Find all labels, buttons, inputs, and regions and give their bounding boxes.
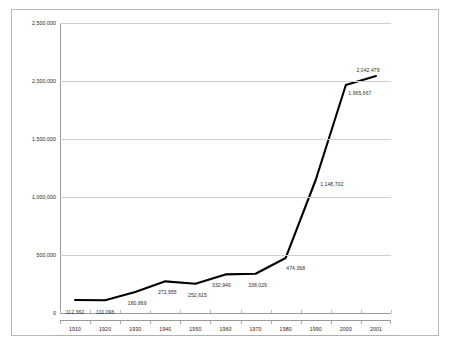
y-axis-tick-label: 2,000,000 [32, 78, 56, 84]
chart-canvas: 0500,0001,000,0001,500,0002,000,0002,500… [12, 10, 440, 337]
x-axis-tick-mark [271, 310, 272, 313]
x-axis-tick-mark [120, 321, 121, 324]
data-point-label: 338,029 [248, 282, 267, 288]
y-axis-tick-label: 500,000 [37, 252, 56, 258]
x-axis-tick-label: 1930 [129, 326, 141, 332]
y-axis-tick-label: 0 [53, 310, 56, 316]
x-axis-tick-mark [331, 310, 332, 313]
gridline [60, 255, 391, 256]
x-axis-tick-mark [120, 310, 121, 313]
data-point-label: 1,148,702 [320, 181, 343, 187]
x-axis-tick-label: 1910 [69, 326, 81, 332]
x-axis-tick-mark [180, 310, 181, 313]
x-axis-tick-mark [180, 321, 181, 324]
data-point-label: 1,965,667 [348, 90, 371, 96]
data-point-label: 332,946 [212, 282, 231, 288]
x-axis-tick-mark [390, 321, 391, 324]
x-axis-tick-mark [271, 321, 272, 324]
x-axis-tick-mark [150, 321, 151, 324]
data-point-label: 110,096 [96, 309, 114, 315]
x-axis-tick-mark [90, 321, 91, 324]
x-axis-tick-label: 1950 [189, 326, 201, 332]
gridline [60, 197, 391, 198]
data-point-label: 180,869 [128, 300, 147, 306]
x-axis-tick-mark [301, 321, 302, 324]
x-axis-tick-mark [60, 310, 61, 313]
x-axis-baseline [54, 335, 397, 336]
gridline [60, 23, 391, 24]
x-axis-tick-label: 1970 [250, 326, 262, 332]
y-axis-tick-label: 1,000,000 [32, 194, 56, 200]
x-axis-tick-label: 1980 [280, 326, 292, 332]
x-axis-tick-mark [301, 310, 302, 313]
x-axis-tick-label: 1920 [99, 326, 111, 332]
x-axis-tick-mark [241, 310, 242, 313]
x-axis-tick-mark [60, 321, 61, 324]
chart-frame: 0500,0001,000,0001,500,0002,000,0002,500… [11, 9, 439, 336]
series-line-population [60, 23, 391, 313]
x-axis-tick-label: 2000 [340, 326, 352, 332]
x-axis-tick-mark [150, 310, 151, 313]
data-point-label: 252,615 [188, 292, 207, 298]
plot-area: 112,362110,096180,869272,955252,615332,9… [60, 23, 391, 313]
data-point-label: 272,955 [158, 289, 177, 295]
x-axis-tick-mark [210, 321, 211, 324]
data-point-label: 112,362 [66, 309, 84, 315]
y-axis-tick-label: 2,500,000 [32, 20, 56, 26]
y-axis-tick-label: 1,500,000 [32, 136, 56, 142]
data-point-label: 474,368 [286, 265, 305, 271]
x-axis-tick-label: 1960 [219, 326, 231, 332]
x-axis-tick-mark [241, 321, 242, 324]
x-axis-tick-mark [90, 310, 91, 313]
x-axis-tick-mark [361, 321, 362, 324]
x-axis-tick-label: 2001 [370, 326, 382, 332]
data-point-label: 2,042,479 [356, 67, 379, 73]
x-axis-tick-mark [361, 310, 362, 313]
gridline [60, 81, 391, 82]
x-axis-tick-mark [331, 321, 332, 324]
x-axis-tick-label: 1990 [310, 326, 322, 332]
y-axis-labels: 0500,0001,000,0001,500,0002,000,0002,500… [12, 23, 56, 313]
x-axis-tick-mark [210, 310, 211, 313]
gridline [60, 139, 391, 140]
x-axis-tick-label: 1940 [159, 326, 171, 332]
x-axis-tick-mark [391, 310, 392, 313]
